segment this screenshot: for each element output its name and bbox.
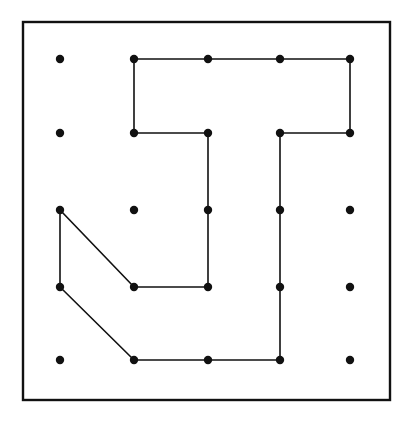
peg-dot (56, 129, 64, 137)
peg-dot (276, 356, 284, 364)
peg-dot (346, 129, 354, 137)
peg-dot (130, 129, 138, 137)
geoboard-diagram (0, 0, 408, 422)
peg-dot (56, 283, 64, 291)
peg-dot (276, 129, 284, 137)
peg-dot (204, 55, 212, 63)
peg-dot (276, 206, 284, 214)
peg-grid (56, 55, 354, 364)
peg-dot (204, 283, 212, 291)
peg-dot (56, 356, 64, 364)
peg-dot (56, 55, 64, 63)
peg-dot (346, 206, 354, 214)
peg-dot (204, 356, 212, 364)
peg-dot (204, 129, 212, 137)
peg-dot (204, 206, 212, 214)
peg-dot (130, 55, 138, 63)
peg-dot (56, 206, 64, 214)
peg-dot (130, 283, 138, 291)
peg-dot (130, 206, 138, 214)
peg-dot (346, 283, 354, 291)
peg-dot (346, 356, 354, 364)
peg-dot (346, 55, 354, 63)
peg-dot (276, 283, 284, 291)
peg-dot (130, 356, 138, 364)
peg-dot (276, 55, 284, 63)
